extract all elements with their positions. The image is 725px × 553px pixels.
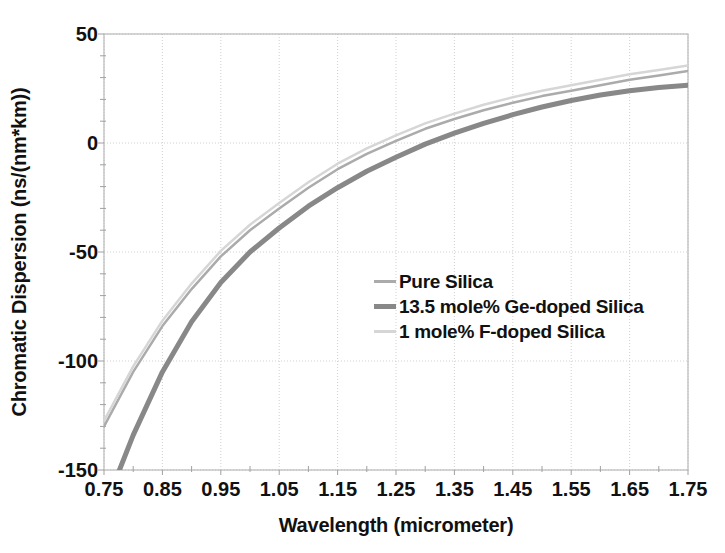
legend-item-pure-silica: Pure Silica [374, 269, 644, 294]
y-tick-label: -50 [38, 241, 98, 263]
tick-marks [98, 34, 688, 475]
x-tick-label: 1.15 [308, 478, 368, 500]
y-tick-label: -150 [38, 459, 98, 481]
legend-swatch-f-doped-silica [374, 330, 396, 333]
legend-swatch-ge-doped-silica [374, 304, 396, 309]
x-tick-label: 1.65 [600, 478, 660, 500]
legend-label-f-doped-silica: 1 mole% F-doped Silica [399, 321, 605, 343]
legend-swatch-pure-silica [374, 280, 396, 283]
x-tick-label: 1.05 [249, 478, 309, 500]
chart: 0.750.850.951.051.151.251.351.451.551.65… [0, 0, 725, 553]
x-tick-label: 1.25 [366, 478, 426, 500]
legend: Pure Silica 13.5 mole% Ge-doped Silica 1… [374, 269, 644, 344]
y-tick-label: 50 [38, 23, 98, 45]
y-tick-label: 0 [38, 132, 98, 154]
legend-label-ge-doped-silica: 13.5 mole% Ge-doped Silica [399, 296, 644, 318]
legend-item-f-doped-silica: 1 mole% F-doped Silica [374, 319, 644, 344]
y-axis-title: Chromatic Dispersion (ns/(nm*km)) [8, 34, 31, 470]
x-tick-label: 1.75 [658, 478, 718, 500]
legend-item-ge-doped-silica: 13.5 mole% Ge-doped Silica [374, 294, 644, 319]
x-axis-title: Wavelength (micrometer) [166, 514, 626, 537]
x-tick-label: 1.45 [483, 478, 543, 500]
y-tick-label: -100 [38, 350, 98, 372]
x-tick-label: 1.35 [424, 478, 484, 500]
legend-label-pure-silica: Pure Silica [399, 271, 493, 293]
x-tick-label: 0.85 [132, 478, 192, 500]
x-tick-label: 1.55 [541, 478, 601, 500]
x-tick-label: 0.95 [191, 478, 251, 500]
gridlines [104, 34, 688, 470]
x-tick-label: 0.75 [74, 478, 134, 500]
